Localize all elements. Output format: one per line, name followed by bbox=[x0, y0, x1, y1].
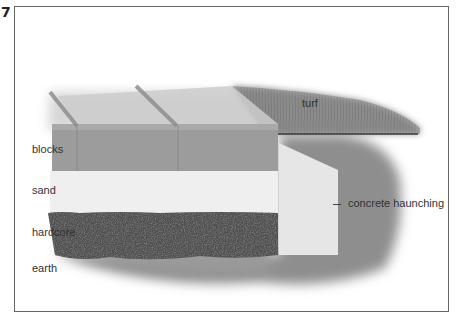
sand-layer bbox=[50, 171, 278, 213]
path-cross-section-illustration bbox=[0, 0, 457, 321]
label-turf: turf bbox=[302, 97, 318, 109]
label-blocks: blocks bbox=[32, 143, 63, 155]
label-hardcore: hardcore bbox=[32, 226, 75, 238]
label-concrete-haunching: concrete haunching bbox=[348, 197, 444, 209]
blocks-front-face bbox=[52, 126, 278, 171]
concrete-haunching-leader-line bbox=[333, 204, 341, 205]
label-earth: earth bbox=[32, 262, 57, 274]
hardcore-layer bbox=[48, 212, 278, 259]
label-sand: sand bbox=[32, 184, 56, 196]
